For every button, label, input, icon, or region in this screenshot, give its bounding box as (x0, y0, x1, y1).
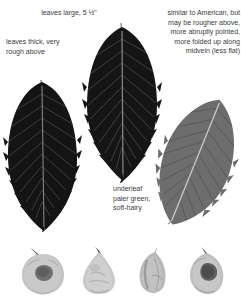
nut-specimen-3 (134, 246, 172, 296)
leaf-specimen-center (84, 23, 160, 183)
nut-specimen-1 (20, 246, 66, 296)
annotation-similar-to-american: similar to American, but may be rougher … (148, 9, 240, 57)
nut-specimen-2 (79, 246, 119, 296)
botanical-figure-plate: leaves large, 5 ½" leaves thick, very ro… (0, 0, 241, 299)
annotation-leaves-thick: leaves thick, very rough above (6, 38, 82, 57)
nut-specimen-4 (186, 246, 228, 296)
annotation-leaves-large: leaves large, 5 ½" (26, 9, 112, 19)
leaf-specimen-left (4, 80, 80, 232)
